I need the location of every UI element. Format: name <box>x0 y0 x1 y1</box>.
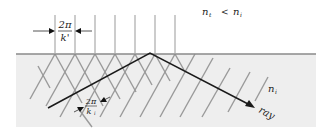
svg-text:n: n <box>202 6 208 17</box>
svg-text:n: n <box>268 83 274 94</box>
svg-text:n: n <box>233 6 239 17</box>
svg-text:i: i <box>240 11 242 18</box>
tir-diagram: 2π k' 2π k i n t < n i n i ray <box>0 0 332 132</box>
incident-spacing-denominator: k <box>87 107 92 116</box>
svg-text:<: < <box>221 7 229 17</box>
svg-text:i: i <box>275 88 277 95</box>
transmitted-spacing-label: 2π k' <box>58 19 72 43</box>
transmitted-spacing-numerator: 2π <box>58 19 72 30</box>
transmitted-spacing-denominator: k' <box>61 32 70 43</box>
svg-text:t: t <box>209 11 212 18</box>
incident-spacing-numerator: 2π <box>85 97 97 106</box>
transmitted-wavefronts <box>55 15 175 54</box>
index-relation-label: n t < n i <box>202 6 242 18</box>
